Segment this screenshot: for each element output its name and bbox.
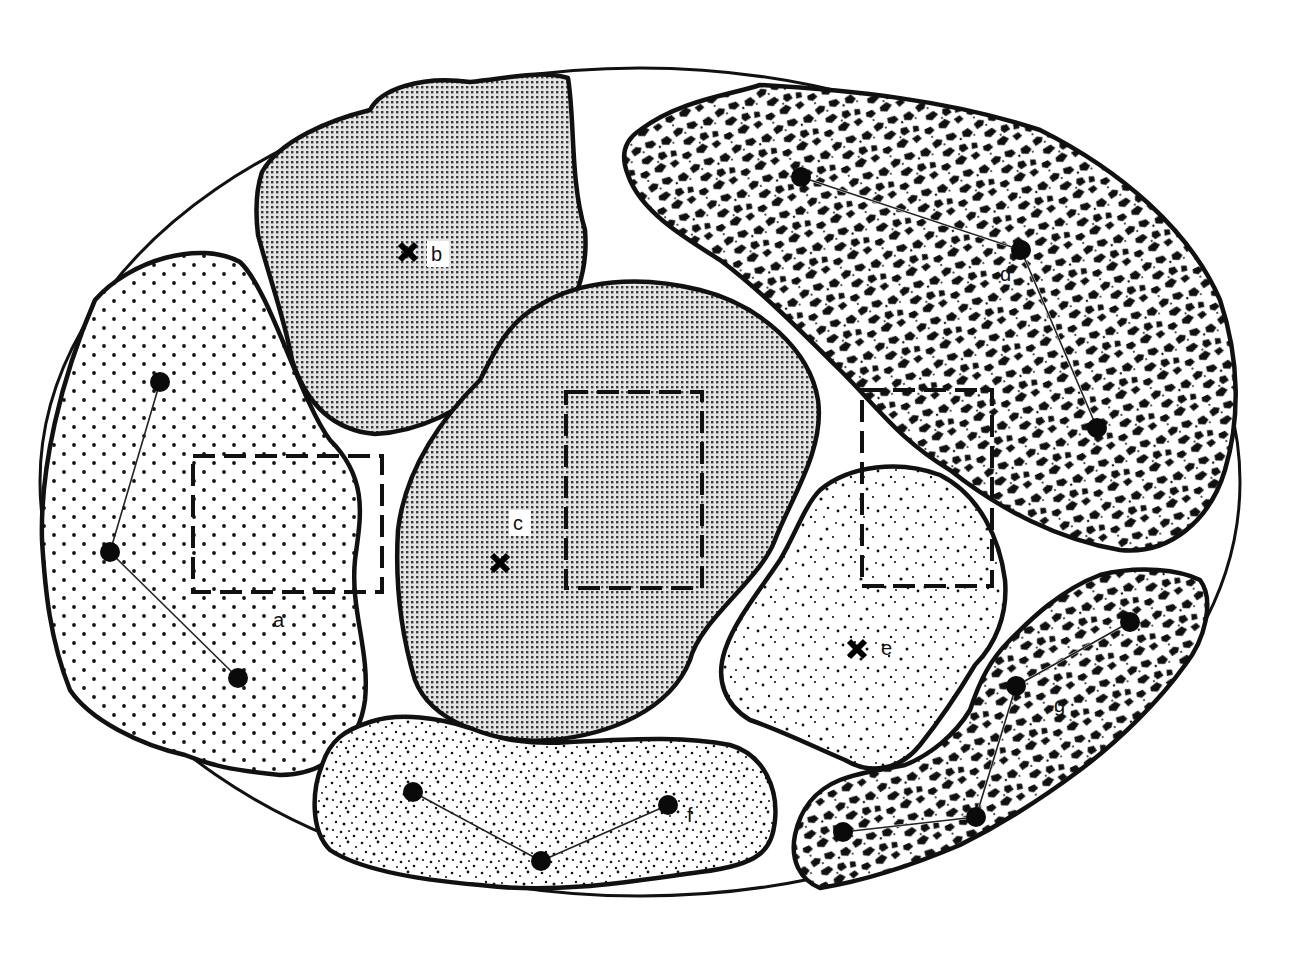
label-f: f xyxy=(687,804,693,826)
node-a3[interactable] xyxy=(228,668,248,688)
node-g4[interactable] xyxy=(833,822,853,842)
label-c: c xyxy=(509,510,531,536)
label-e: e xyxy=(881,637,892,659)
label-g: g xyxy=(1054,694,1065,716)
svg-text:d: d xyxy=(1000,263,1011,285)
svg-text:a: a xyxy=(273,609,285,631)
svg-text:f: f xyxy=(687,804,693,826)
patch-diagram: a b c d e f g xyxy=(0,0,1304,966)
svg-text:c: c xyxy=(513,512,523,534)
node-f2[interactable] xyxy=(531,851,551,871)
node-d2[interactable] xyxy=(1011,240,1031,260)
node-d3[interactable] xyxy=(1087,418,1107,438)
svg-text:e: e xyxy=(881,637,892,659)
label-b: b xyxy=(427,241,449,267)
diagram-stage: a b c d e f g xyxy=(0,0,1304,966)
label-d: d xyxy=(1000,263,1011,285)
label-a: a xyxy=(273,609,285,631)
node-a2[interactable] xyxy=(100,542,120,562)
node-f3[interactable] xyxy=(658,795,678,815)
svg-text:g: g xyxy=(1054,694,1065,716)
node-d1[interactable] xyxy=(791,167,811,187)
node-g3[interactable] xyxy=(966,807,986,827)
node-g1[interactable] xyxy=(1120,612,1140,632)
node-g2[interactable] xyxy=(1006,676,1026,696)
svg-text:b: b xyxy=(431,243,442,265)
node-a1[interactable] xyxy=(150,372,170,392)
node-f1[interactable] xyxy=(403,782,423,802)
